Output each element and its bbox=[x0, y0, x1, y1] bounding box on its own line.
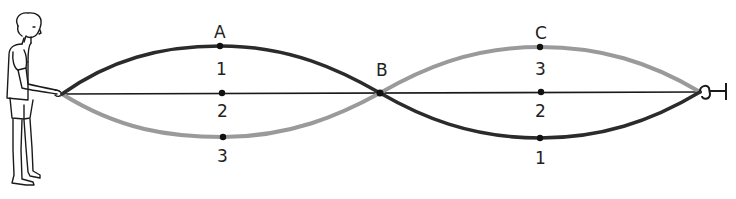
point-right-1-dot bbox=[537, 135, 543, 141]
wall-hook-icon bbox=[700, 83, 726, 100]
label-right-1: 1 bbox=[535, 148, 546, 168]
person-holding-rope-icon bbox=[7, 13, 62, 185]
standing-wave-diagram: A B C 1 2 3 3 2 1 bbox=[0, 0, 736, 199]
point-b-dot bbox=[377, 90, 384, 97]
label-left-3: 3 bbox=[217, 146, 228, 166]
label-right-3: 3 bbox=[535, 59, 546, 79]
label-left-2: 2 bbox=[217, 101, 228, 121]
label-left-1: 1 bbox=[216, 59, 227, 79]
label-c: C bbox=[535, 23, 547, 43]
label-right-2: 2 bbox=[535, 101, 546, 121]
label-a: A bbox=[214, 22, 226, 42]
point-c-dot bbox=[537, 44, 543, 50]
point-left-3-dot bbox=[220, 134, 226, 140]
point-left-2-dot bbox=[219, 90, 225, 96]
point-a-dot bbox=[217, 43, 223, 49]
point-right-2-dot bbox=[538, 89, 544, 95]
label-b: B bbox=[376, 60, 388, 80]
